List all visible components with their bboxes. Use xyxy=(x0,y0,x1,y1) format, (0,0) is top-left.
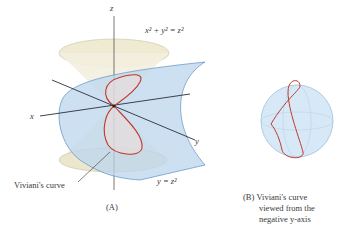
sphere xyxy=(261,81,333,158)
caption-b-tag: (B) xyxy=(243,192,254,202)
caption-b-line1: Viviani's curve xyxy=(256,192,307,202)
z-axis-label: z xyxy=(110,3,113,13)
x-axis-label: x xyxy=(30,111,34,121)
cylinder-equation: y = z² xyxy=(157,176,177,186)
caption-b-line2: viewed from the xyxy=(243,203,315,214)
y-axis-label: y xyxy=(195,136,199,146)
caption-b-line3: negative y-axis xyxy=(243,214,315,225)
vivianis-curve-label: Viviani's curve xyxy=(14,180,65,190)
cone-equation: x² + y² = z² xyxy=(145,25,183,35)
caption-a: (A) xyxy=(106,202,118,212)
caption-b: (B) Viviani's curve viewed from the nega… xyxy=(243,192,315,225)
